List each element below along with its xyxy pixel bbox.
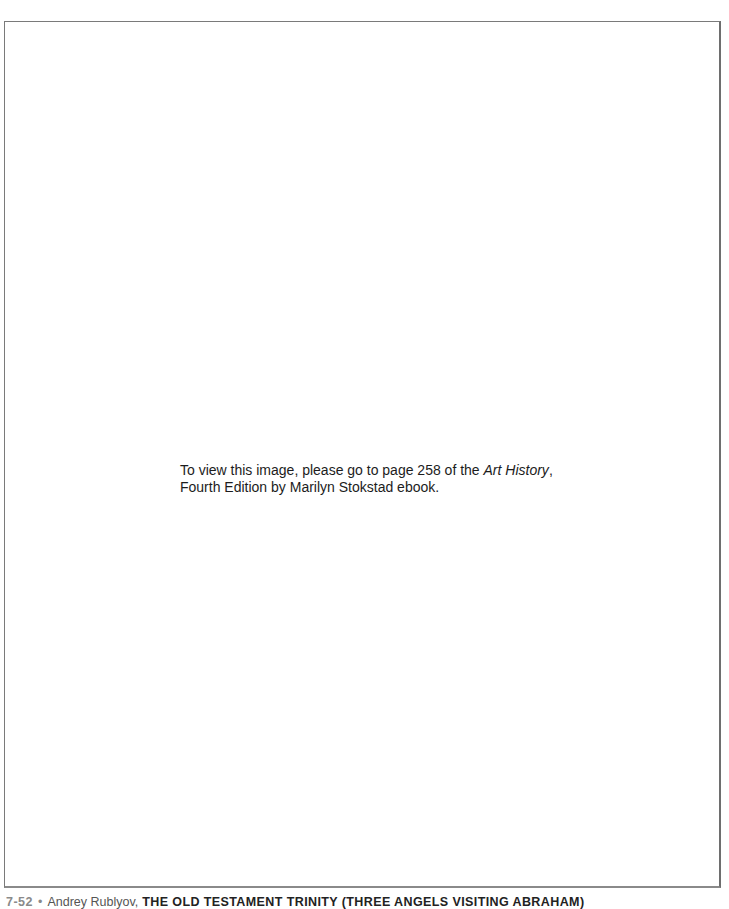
artwork-title: THE OLD TESTAMENT TRINITY (THREE ANGELS … (142, 895, 584, 909)
figure-caption: 7-52•Andrey Rublyov,THE OLD TESTAMENT TR… (6, 895, 584, 909)
image-placeholder-frame: To view this image, please go to page 25… (4, 21, 721, 888)
notice-line-2: Fourth Edition by Marilyn Stokstad ebook… (180, 479, 600, 496)
image-unavailable-notice: To view this image, please go to page 25… (180, 462, 600, 495)
notice-text-prefix: To view this image, please go to page 25… (180, 462, 484, 478)
notice-line-1: To view this image, please go to page 25… (180, 462, 600, 479)
caption-bullet: • (38, 895, 42, 909)
artist-name: Andrey Rublyov, (47, 895, 138, 909)
book-title: Art History (484, 462, 549, 478)
notice-text-suffix: , (549, 462, 553, 478)
figure-number: 7-52 (6, 895, 33, 909)
